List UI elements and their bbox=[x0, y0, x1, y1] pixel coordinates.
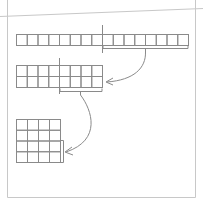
grid-cell bbox=[70, 66, 81, 77]
grid-cell bbox=[124, 35, 135, 46]
frame bbox=[0, 0, 203, 198]
grid-cell bbox=[70, 35, 81, 46]
grid-cell bbox=[39, 141, 50, 152]
strip-bracket bbox=[103, 46, 188, 53]
grid-cell bbox=[39, 120, 50, 131]
grid-cell bbox=[49, 66, 60, 77]
grid-cell bbox=[17, 120, 28, 131]
grid-cell bbox=[27, 35, 38, 46]
grid-cell bbox=[92, 77, 103, 88]
grid-cell bbox=[28, 130, 39, 141]
grid-cell bbox=[38, 77, 49, 88]
grid-cell bbox=[50, 120, 61, 131]
grid-cell bbox=[38, 66, 49, 77]
grid-cell bbox=[50, 130, 61, 141]
grid-cell bbox=[28, 141, 39, 152]
grid-cell bbox=[17, 35, 28, 46]
grid-cell bbox=[27, 66, 38, 77]
grid-cell bbox=[81, 77, 92, 88]
grid-cell bbox=[167, 35, 178, 46]
grid-cell bbox=[70, 77, 81, 88]
grid-cell bbox=[28, 152, 39, 163]
grid-cell bbox=[39, 152, 50, 163]
grid-cell bbox=[146, 35, 157, 46]
frame-top-line bbox=[0, 9, 203, 17]
arrow-grid2-to-grid4 bbox=[66, 95, 91, 152]
grid-cell bbox=[92, 66, 103, 77]
grid-4x4 bbox=[17, 120, 61, 163]
grid-cell bbox=[39, 130, 50, 141]
grid-cell bbox=[28, 120, 39, 131]
grid-cell bbox=[50, 141, 61, 152]
grid-cell bbox=[103, 35, 114, 46]
grid-cell bbox=[156, 35, 167, 46]
grid-cell bbox=[49, 77, 60, 88]
grid-cell bbox=[50, 152, 61, 163]
grid-cell bbox=[17, 77, 28, 88]
grid-cell bbox=[17, 141, 28, 152]
grid-cell bbox=[60, 77, 71, 88]
arrow-strip-to-grid2 bbox=[107, 52, 146, 82]
grid-cell bbox=[178, 35, 189, 46]
grid-cell bbox=[27, 77, 38, 88]
grid-cell bbox=[17, 152, 28, 163]
grid-cell bbox=[17, 66, 28, 77]
grid2-bracket bbox=[60, 89, 102, 96]
grid-cell bbox=[49, 35, 60, 46]
grid-cell bbox=[92, 35, 103, 46]
diagram-svg bbox=[0, 0, 203, 202]
grid-cell bbox=[81, 35, 92, 46]
grid-cell bbox=[113, 35, 124, 46]
diagram-canvas bbox=[0, 0, 203, 202]
grid-cell bbox=[60, 35, 71, 46]
grid-cell bbox=[60, 66, 71, 77]
grid-cell bbox=[38, 35, 49, 46]
grid-cell bbox=[81, 66, 92, 77]
grid-cell bbox=[17, 130, 28, 141]
grid-cell bbox=[135, 35, 146, 46]
